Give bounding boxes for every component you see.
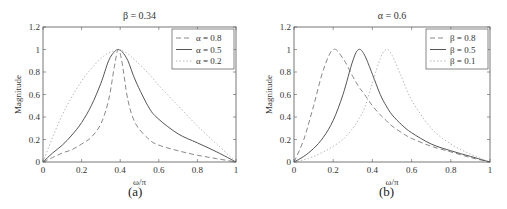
y-tick-label: 0.8 (29, 67, 41, 77)
y-tick-label: 0.6 (280, 90, 292, 100)
y-tick-label: 1 (36, 45, 41, 55)
chart-title: α = 0.6 (378, 10, 406, 21)
panel-b-caption: (b) (379, 184, 394, 200)
x-tick-label: 0.2 (328, 165, 339, 175)
chart-panel-b: α = 0.600.20.40.60.8100.20.40.60.811.2ω/… (252, 0, 507, 209)
y-tick-label: 0.6 (29, 90, 41, 100)
chart-a: β = 0.3400.20.40.60.8100.20.40.60.811.2ω… (0, 0, 255, 209)
x-tick-label: 0.6 (153, 165, 165, 175)
legend: α = 0.8α = 0.5α = 0.2 (172, 29, 234, 69)
x-tick-label: 0.2 (76, 165, 87, 175)
legend-label: α = 0.2 (196, 56, 222, 66)
legend-label: β = 0.1 (450, 56, 475, 66)
x-tick-label: 0 (41, 165, 46, 175)
panel-a-caption: (a) (128, 184, 142, 200)
legend-label: β = 0.8 (450, 33, 476, 43)
legend-label: α = 0.5 (196, 45, 222, 55)
legend: β = 0.8β = 0.5β = 0.1 (426, 29, 488, 69)
chart-b: α = 0.600.20.40.60.8100.20.40.60.811.2ω/… (252, 0, 507, 209)
y-tick-label: 1.2 (29, 22, 40, 32)
y-tick-label: 0.8 (280, 67, 292, 77)
x-tick-label: 0.4 (367, 165, 379, 175)
x-tick-label: 0.8 (445, 165, 457, 175)
y-axis-label: Magnitude (264, 75, 274, 114)
x-tick-label: 1 (234, 165, 239, 175)
y-tick-label: 0 (287, 157, 292, 167)
x-tick-label: 1 (488, 165, 493, 175)
y-tick-label: 1 (287, 45, 292, 55)
legend-label: β = 0.5 (450, 45, 476, 55)
x-tick-label: 0 (292, 165, 297, 175)
y-tick-label: 0.4 (29, 112, 41, 122)
chart-title: β = 0.34 (123, 10, 156, 21)
chart-panel-a: β = 0.3400.20.40.60.8100.20.40.60.811.2ω… (0, 0, 255, 209)
y-axis-label: Magnitude (13, 75, 23, 114)
y-tick-label: 0.2 (29, 135, 40, 145)
x-tick-label: 0.6 (406, 165, 418, 175)
y-tick-label: 1.2 (280, 22, 291, 32)
legend-label: α = 0.8 (196, 33, 222, 43)
y-tick-label: 0 (36, 157, 41, 167)
x-tick-label: 0.4 (115, 165, 127, 175)
x-tick-label: 0.8 (192, 165, 204, 175)
y-tick-label: 0.2 (280, 135, 291, 145)
y-tick-label: 0.4 (280, 112, 292, 122)
